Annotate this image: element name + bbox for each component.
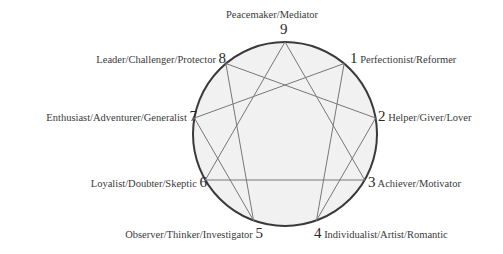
type-7-label: Enthusiast/Adventurer/Generalist 7 (46, 110, 197, 124)
type-5-label: Observer/Thinker/Investigator 5 (125, 227, 263, 241)
type-9-label: Peacemaker/Mediator (226, 9, 318, 21)
type-3-label: 3 Achiever/Motivator (368, 176, 461, 190)
type-9-number: 9 (280, 23, 288, 35)
enneagram-circle (193, 42, 377, 226)
type-8-label: Leader/Challenger/Protector 8 (96, 52, 226, 66)
type-6-label: Loyalist/Doubter/Skeptic 6 (91, 176, 207, 190)
type-2-label: 2 Helper/Giver/Lover (378, 110, 472, 124)
enneagram-diagram (0, 0, 503, 254)
type-4-label: 4 Individualist/Artist/Romantic (314, 227, 448, 241)
type-1-label: 1 Perfectionist/Reformer (350, 52, 456, 66)
